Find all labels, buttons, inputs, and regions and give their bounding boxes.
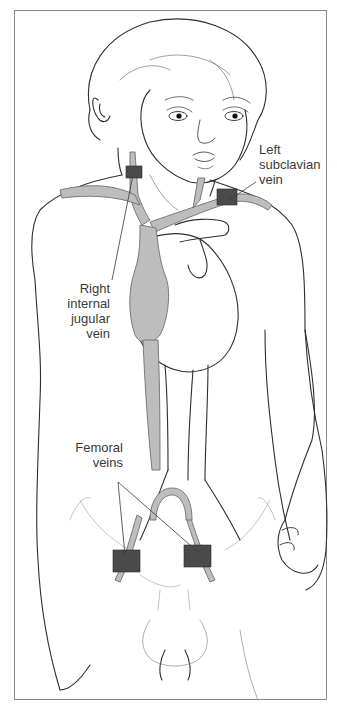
- child-anatomy-illustration: [0, 0, 337, 710]
- face-outline: [141, 90, 247, 183]
- head-outline: [88, 19, 266, 160]
- marker-left-femoral: [184, 545, 211, 567]
- marker-right-femoral: [113, 550, 140, 572]
- torso-left-outline: [32, 175, 122, 690]
- access-markers: [113, 166, 237, 572]
- inferior-vena-cava: [143, 340, 160, 470]
- label-line: Right: [66, 281, 110, 296]
- superior-vena-cava-right-atrium: [130, 225, 169, 343]
- left-subclavian-vein: [150, 194, 272, 232]
- label-line: internal: [66, 296, 110, 311]
- label-line: Left: [259, 142, 320, 157]
- label-line: jugular: [66, 311, 110, 326]
- arm: [285, 330, 314, 520]
- right-internal-jugular-vein: [130, 152, 150, 225]
- label-line: vein: [259, 172, 320, 187]
- label-right-internal-jugular-vein: Right internal jugular vein: [66, 281, 110, 341]
- label-line: vein: [66, 326, 110, 341]
- label-line: veins: [75, 455, 123, 470]
- label-femoral-veins: Femoral veins: [75, 440, 123, 470]
- label-line: Femoral: [75, 440, 123, 455]
- label-left-subclavian-vein: Left subclavian vein: [259, 142, 320, 187]
- venous-system: [60, 152, 272, 582]
- torso-right-outline: [210, 180, 327, 590]
- marker-right-internal-jugular: [126, 166, 142, 178]
- label-line: subclavian: [259, 157, 320, 172]
- ear: [93, 98, 110, 122]
- leader-femoral-right: [118, 482, 125, 555]
